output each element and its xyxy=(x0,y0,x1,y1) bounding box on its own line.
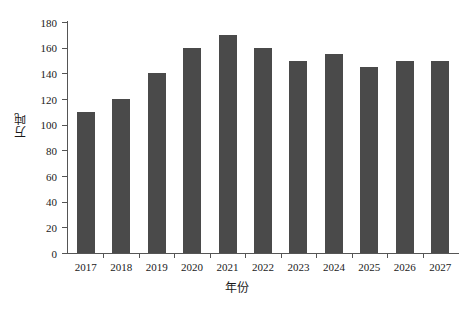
y-tick-label: 160 xyxy=(41,43,58,54)
bar xyxy=(183,48,201,253)
plot-area xyxy=(68,22,458,253)
x-tick-label: 2027 xyxy=(423,261,458,273)
bar xyxy=(289,61,307,254)
y-tick-label: 60 xyxy=(46,171,57,182)
x-tick-label: 2020 xyxy=(174,261,209,273)
y-tick-label: 100 xyxy=(41,120,58,131)
bar xyxy=(396,61,414,254)
y-tick-label: 40 xyxy=(46,197,57,208)
x-tick xyxy=(103,253,104,258)
y-tick-label: 140 xyxy=(41,68,58,79)
bar xyxy=(112,99,130,253)
x-axis-line xyxy=(67,253,459,254)
x-tick xyxy=(281,253,282,258)
x-tick-label: 2017 xyxy=(68,261,103,273)
x-tick xyxy=(245,253,246,258)
y-tick-label: 20 xyxy=(46,222,57,233)
y-axis-title: 万吨 xyxy=(14,112,28,138)
y-tick: 0 xyxy=(62,253,68,254)
x-tick-label: 2025 xyxy=(352,261,387,273)
x-tick xyxy=(423,253,424,258)
x-tick xyxy=(316,253,317,258)
y-tick-label: 80 xyxy=(46,145,57,156)
y-tick-label: 120 xyxy=(41,94,58,105)
bar-chart: 万吨 020406080100120140160180 201720182019… xyxy=(0,0,473,313)
y-tick-label: 0 xyxy=(52,248,58,259)
bar xyxy=(431,61,449,254)
x-tick-label: 2019 xyxy=(139,261,174,273)
x-axis-title: 年份 xyxy=(0,281,473,295)
x-tick-label: 2022 xyxy=(245,261,280,273)
bar xyxy=(360,67,378,253)
bar xyxy=(219,35,237,253)
x-tick xyxy=(139,253,140,258)
y-tick-label: 180 xyxy=(41,17,58,28)
x-tick xyxy=(352,253,353,258)
bar xyxy=(325,54,343,253)
x-tick-label: 2026 xyxy=(387,261,422,273)
x-tick-label: 2024 xyxy=(316,261,351,273)
x-tick xyxy=(387,253,388,258)
x-tick xyxy=(210,253,211,258)
bar xyxy=(254,48,272,253)
x-tick-label: 2021 xyxy=(210,261,245,273)
x-tick xyxy=(174,253,175,258)
x-tick-label: 2023 xyxy=(281,261,316,273)
x-tick-label: 2018 xyxy=(103,261,138,273)
bar xyxy=(77,112,95,253)
bar xyxy=(148,73,166,253)
